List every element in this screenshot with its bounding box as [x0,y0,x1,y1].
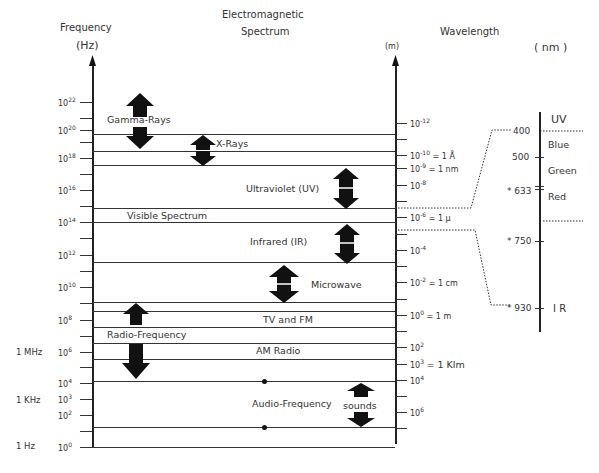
nm-tick-400: 400 [513,126,530,136]
nm-tick-500: 500 [512,152,529,162]
nm-tick-633: * 633 [507,186,532,196]
nm-region-ir: I R [553,303,566,314]
nm-axis-line [539,112,541,332]
nm-region-blue: Blue [548,139,569,150]
nm-region-red: Red [548,191,566,202]
nm-region-green: Green [548,165,577,176]
nm-region-uv: UV [551,113,567,126]
nm-tick-750: * 750 [507,236,532,246]
nm-tick-930: * 930 [507,303,532,313]
